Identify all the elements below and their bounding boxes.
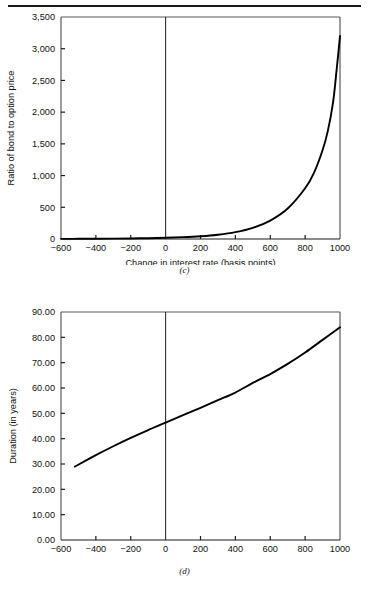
y-tick-label: 1,000: [32, 171, 55, 181]
y-tick-label: 90.00: [32, 307, 55, 317]
y-tick-label: 50.00: [32, 409, 55, 419]
x-tick-label: 800: [297, 243, 312, 253]
x-tick-label: −200: [120, 243, 141, 253]
y-tick-label: 80.00: [32, 333, 55, 343]
figure-c-caption: (c): [0, 265, 369, 275]
x-tick-label: 600: [263, 243, 278, 253]
figure-page: 05001,0001,5002,0002,5003,0003,500−600−4…: [0, 0, 369, 590]
x-tick-label: 400: [228, 243, 243, 253]
x-tick-label: −600: [51, 243, 72, 253]
x-tick-label: 400: [228, 544, 243, 554]
x-tick-label: 0: [163, 544, 168, 554]
x-tick-label: 200: [193, 243, 208, 253]
x-tick-label: −400: [86, 243, 107, 253]
y-tick-label: 10.00: [32, 510, 55, 520]
y-tick-label: 20.00: [32, 485, 55, 495]
y-tick-label: 70.00: [32, 358, 55, 368]
chart-d-canvas: 0.0010.0020.0030.0040.0050.0060.0070.008…: [0, 305, 369, 560]
y-tick-label: 3,000: [32, 44, 55, 54]
y-axis-title: Duration (in years): [8, 388, 18, 464]
plot-area-background: [61, 17, 340, 239]
chart-c-canvas: 05001,0001,5002,0002,5003,0003,500−600−4…: [0, 10, 369, 265]
y-tick-label: 30.00: [32, 459, 55, 469]
y-tick-label: 1,500: [32, 139, 55, 149]
y-tick-label: 2,500: [32, 76, 55, 86]
figure-c: 05001,0001,5002,0002,5003,0003,500−600−4…: [0, 10, 369, 295]
x-tick-label: −600: [51, 544, 72, 554]
y-tick-label: 500: [40, 203, 55, 213]
y-tick-label: 2,000: [32, 107, 55, 117]
figure-d: 0.0010.0020.0030.0040.0050.0060.0070.008…: [0, 305, 369, 590]
header-rule: [8, 5, 361, 7]
y-tick-label: 40.00: [32, 434, 55, 444]
x-axis-title: Change in interest rate (basis points): [125, 559, 275, 560]
x-tick-label: 0: [163, 243, 168, 253]
x-tick-label: 1000: [330, 544, 350, 554]
plot-area-background: [61, 312, 340, 540]
x-tick-label: 800: [297, 544, 312, 554]
figure-d-caption: (d): [0, 566, 369, 576]
x-tick-label: 200: [193, 544, 208, 554]
y-tick-label: 3,500: [32, 12, 55, 22]
x-tick-label: −400: [86, 544, 107, 554]
x-tick-label: −200: [120, 544, 141, 554]
y-axis-title: Ratio of bond to option price: [6, 71, 16, 186]
x-axis-title: Change in interest rate (basis points): [125, 258, 275, 265]
y-tick-label: 60.00: [32, 383, 55, 393]
x-tick-label: 600: [263, 544, 278, 554]
x-tick-label: 1000: [330, 243, 350, 253]
